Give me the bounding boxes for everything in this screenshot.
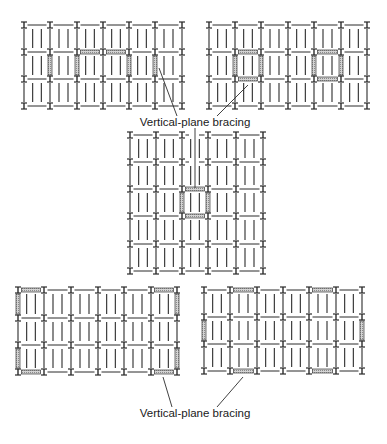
horizontal-brace [22,370,41,374]
horizontal-brace [107,50,126,54]
i-column-icon [364,49,370,55]
grid-bottom-right [201,287,365,374]
i-column-icon [333,368,339,374]
i-column-icon [153,268,159,274]
i-column-icon [126,22,132,28]
i-column-icon [311,103,317,109]
i-column-icon [152,49,158,55]
horizontal-brace [186,214,205,218]
i-column-icon [359,287,365,293]
i-column-icon [95,369,101,375]
i-column-icon [68,369,74,375]
i-column-icon [333,287,339,293]
i-column-icon [127,132,133,138]
i-column-icon [121,315,127,321]
horizontal-brace [313,288,333,292]
vertical-brace [175,294,179,314]
i-column-icon [179,241,185,247]
vertical-brace [259,56,263,75]
i-column-icon [232,49,238,55]
vertical-brace [180,193,184,212]
i-column-icon [179,49,185,55]
i-column-icon [359,314,365,320]
i-column-icon [359,341,365,347]
horizontal-brace [155,370,174,374]
i-column-icon [21,22,27,28]
i-column-icon [232,22,238,28]
i-column-icon [205,213,211,219]
i-column-icon [205,241,211,247]
vertical-brace [153,56,157,75]
i-column-icon [95,342,101,348]
vertical-brace [175,349,179,368]
bracing-plan-diagram [0,0,387,444]
i-column-icon [333,341,339,347]
i-column-icon [41,342,47,348]
i-column-icon [254,368,260,374]
i-column-icon [47,22,53,28]
i-column-icon [233,132,239,138]
i-column-icon [127,213,133,219]
i-column-icon [100,22,106,28]
i-column-icon [227,368,233,374]
i-column-icon [74,76,80,82]
i-column-icon [100,76,106,82]
i-column-icon [21,103,27,109]
i-column-icon [260,186,266,192]
vertical-brace [75,56,79,75]
i-column-icon [100,49,106,55]
i-column-icon [258,22,264,28]
i-column-icon [227,314,233,320]
vertical-brace [202,321,206,340]
i-column-icon [153,186,159,192]
i-column-icon [232,103,238,109]
i-column-icon [148,342,154,348]
i-column-icon [153,213,159,219]
horizontal-brace [318,50,338,54]
vertical-plane-bracing-label-top: Vertical-plane bracing [140,117,251,129]
i-column-icon [338,22,344,28]
i-column-icon [364,76,370,82]
i-column-icon [338,49,344,55]
horizontal-brace [22,288,41,292]
vertical-brace [127,56,131,75]
i-column-icon [306,287,312,293]
vertical-brace [48,56,52,75]
i-column-icon [233,159,239,165]
i-column-icon [179,76,185,82]
i-column-icon [285,49,291,55]
horizontal-brace [239,50,258,54]
i-column-icon [364,22,370,28]
i-column-icon [179,186,185,192]
i-column-icon [74,103,80,109]
i-column-icon [153,159,159,165]
grid-top-left [21,22,185,109]
leader-bottom-left [163,377,172,407]
floor-grids [15,22,370,375]
i-column-icon [254,314,260,320]
i-column-icon [127,186,133,192]
i-column-icon [201,368,207,374]
i-column-icon [174,369,180,375]
i-column-icon [364,103,370,109]
leader-bottom-right [217,377,243,407]
i-column-icon [95,315,101,321]
i-column-icon [359,368,365,374]
i-column-icon [153,132,159,138]
i-column-icon [74,49,80,55]
i-column-icon [126,49,132,55]
vertical-brace [360,321,364,340]
i-column-icon [174,342,180,348]
i-column-icon [148,315,154,321]
horizontal-brace [234,288,254,292]
i-column-icon [280,368,286,374]
i-column-icon [148,369,154,375]
i-column-icon [205,132,211,138]
vertical-brace [312,56,316,75]
horizontal-brace [318,77,338,81]
grid-top-right [206,22,370,109]
grid-bottom-left [15,287,180,375]
i-column-icon [95,287,101,293]
i-column-icon [47,76,53,82]
i-column-icon [68,287,74,293]
